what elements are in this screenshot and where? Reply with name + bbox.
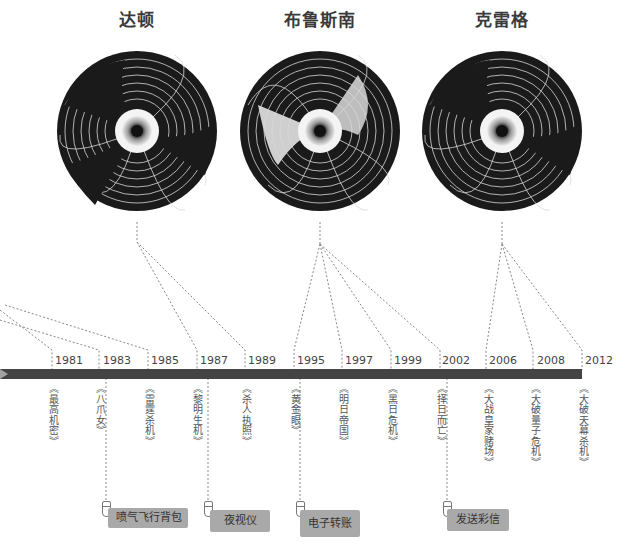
year-label: 2012 — [585, 354, 613, 367]
gadget-tag-jetpack: 喷气飞行背包 — [108, 508, 188, 528]
year-label: 1999 — [394, 354, 422, 367]
year-label: 2002 — [442, 354, 470, 367]
film-title: 《择日而亡》 — [433, 383, 447, 446]
gun-barrel-icon-craig — [420, 45, 584, 217]
gadget-tag-night-vision: 夜视仪 — [210, 510, 270, 532]
gun-barrel-icon-dalton — [55, 45, 219, 217]
actor-title-brosnan: 布鲁斯南 — [240, 6, 400, 31]
year-label: 1995 — [297, 354, 325, 367]
film-title: 《雷霆杀机》 — [141, 383, 155, 446]
film-title: 《黄金眼》 — [287, 383, 301, 436]
film-title: 《大破天幕杀机》 — [575, 383, 589, 467]
year-label: 2008 — [537, 354, 565, 367]
gun-barrel-icon-brosnan — [238, 45, 402, 217]
actor-title-craig: 克雷格 — [422, 6, 582, 31]
actor-title-dalton: 达顿 — [57, 6, 217, 31]
year-label: 1987 — [200, 354, 228, 367]
year-label: 1989 — [248, 354, 276, 367]
year-label: 2006 — [489, 354, 517, 367]
year-label: 1983 — [103, 354, 131, 367]
film-title: 《杀人执照》 — [238, 383, 252, 446]
film-title: 《黎明生机》 — [189, 383, 203, 446]
year-label: 1997 — [345, 354, 373, 367]
film-title: 《明日帝国》 — [335, 383, 349, 446]
film-title: 《最高机密》 — [45, 383, 59, 446]
film-title: 《大战皇家赌场》 — [480, 383, 494, 467]
film-title: 《黑日危机》 — [384, 383, 398, 446]
year-label: 1981 — [55, 354, 83, 367]
gadget-tag-mms: 发送彩信 — [447, 509, 509, 531]
gadget-tag-e-transfer: 电子转账 — [300, 510, 360, 537]
film-title: 《大破量子危机》 — [527, 383, 541, 467]
film-title: 《八爪女》 — [92, 383, 106, 436]
year-label: 1985 — [151, 354, 179, 367]
